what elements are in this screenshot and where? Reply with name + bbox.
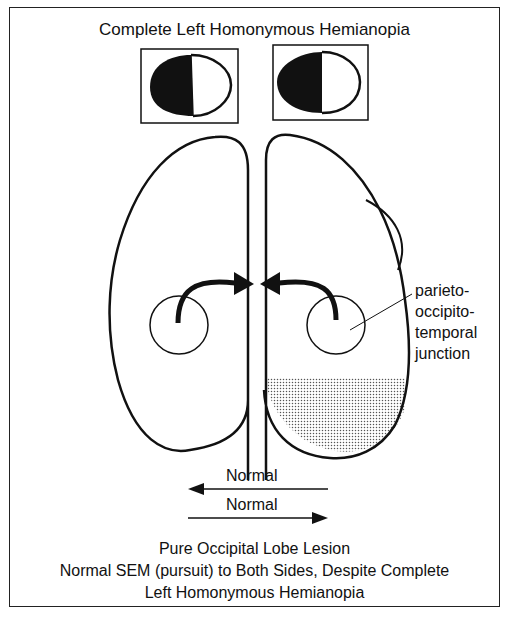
poj-label: parieto- occipito- temporal junction — [415, 280, 477, 364]
poj-label-line: parieto- — [415, 280, 477, 301]
right-arrowhead-icon — [260, 272, 280, 295]
left-eye-visual-field — [141, 49, 238, 123]
caption-line: Pure Occipital Lobe Lesion — [0, 538, 509, 560]
leftward-pursuit-label: Normal — [226, 467, 278, 485]
occipital-lesion-stipple — [262, 378, 405, 470]
rightward-pursuit-label: Normal — [226, 496, 278, 514]
poj-label-line: junction — [415, 343, 477, 364]
right-eye-visual-field — [273, 45, 368, 120]
poj-label-line: occipito- — [415, 301, 477, 322]
right-pursuit-signal-arrow — [279, 282, 336, 320]
left-arrowhead-icon — [234, 272, 254, 295]
caption-line: Normal SEM (pursuit) to Both Sides, Desp… — [0, 560, 509, 582]
caption-line: Left Homonymous Hemianopia — [0, 582, 509, 604]
poj-label-line: temporal — [415, 322, 477, 343]
label-leader-line — [350, 294, 412, 330]
figure-caption: Pure Occipital Lobe Lesion Normal SEM (p… — [0, 538, 509, 604]
